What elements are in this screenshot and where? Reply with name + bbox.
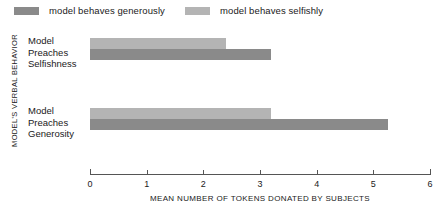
x-tick-label-3: 3: [257, 179, 262, 189]
x-tick-0: [90, 169, 91, 175]
x-tick-label-2: 2: [201, 179, 206, 189]
bar-selfishness-selfishly: [90, 38, 226, 49]
category-label-selfishness: Model Preaches Selfishness: [28, 35, 90, 70]
y-axis-title: MODEL'S VERBAL BEHAVIOR: [10, 18, 19, 163]
x-tick-1: [147, 170, 148, 175]
chart-legend: model behaves generously model behaves s…: [0, 0, 436, 26]
legend-swatch-selfishly: [185, 7, 210, 15]
legend-swatch-generously: [14, 7, 39, 15]
x-axis-line: [90, 174, 430, 175]
x-tick-label-1: 1: [144, 179, 149, 189]
bar-generosity-generously: [90, 119, 388, 130]
x-tick-6: [430, 169, 431, 175]
x-tick-3: [260, 170, 261, 175]
x-tick-label-4: 4: [314, 179, 319, 189]
x-tick-2: [203, 170, 204, 175]
legend-item-selfishly: model behaves selfishly: [185, 6, 323, 16]
plot-area: [90, 30, 430, 175]
bar-selfishness-generously: [90, 49, 271, 60]
x-tick-label-6: 6: [427, 179, 432, 189]
x-tick-label-0: 0: [87, 179, 92, 189]
x-tick-5: [373, 170, 374, 175]
category-label-generosity: Model Preaches Generosity: [28, 105, 90, 140]
legend-item-generously: model behaves generously: [14, 6, 165, 16]
bar-group-generosity: [90, 108, 430, 130]
x-tick-4: [317, 170, 318, 175]
bar-group-selfishness: [90, 38, 430, 60]
x-axis-title: MEAN NUMBER OF TOKENS DONATED BY SUBJECT…: [90, 194, 430, 204]
bar-generosity-selfishly: [90, 108, 271, 119]
legend-label-selfishly: model behaves selfishly: [220, 6, 323, 16]
legend-label-generously: model behaves generously: [49, 6, 165, 16]
x-tick-label-5: 5: [371, 179, 376, 189]
